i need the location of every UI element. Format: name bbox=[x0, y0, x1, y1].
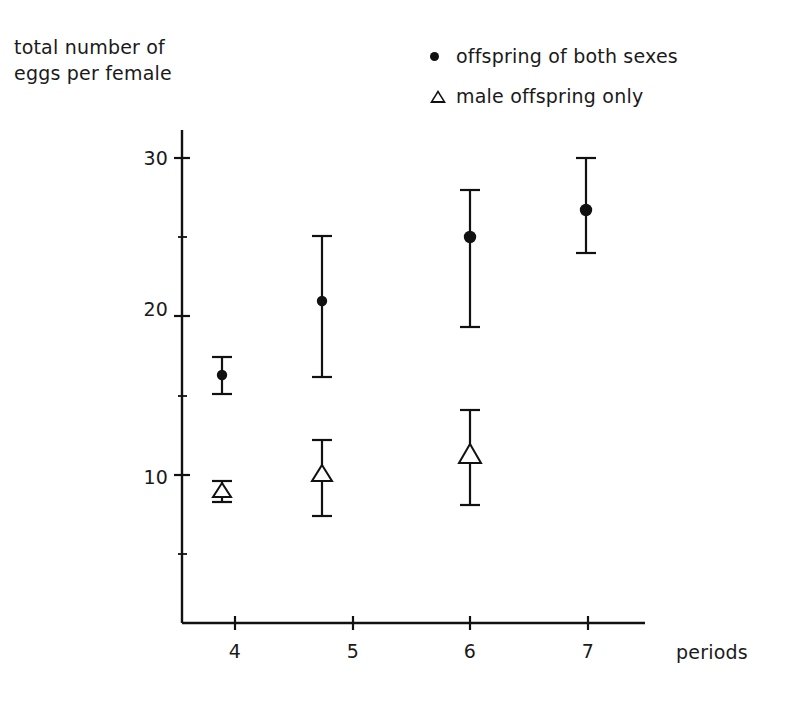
data-point-period-5 bbox=[312, 236, 332, 377]
series-male-offspring-only bbox=[212, 410, 481, 516]
data-point-period-6 bbox=[459, 410, 481, 505]
data-point-period-4 bbox=[212, 481, 232, 502]
data-point-period-5 bbox=[312, 440, 332, 516]
figure: total number of eggs per female offsprin… bbox=[0, 0, 789, 705]
series-offspring-both-sexes bbox=[212, 158, 596, 394]
axis-lines bbox=[182, 130, 645, 623]
data-point-period-6 bbox=[460, 190, 480, 327]
data-point-period-7 bbox=[576, 158, 596, 253]
data-point-period-4 bbox=[212, 357, 232, 394]
plot-area bbox=[0, 0, 789, 705]
